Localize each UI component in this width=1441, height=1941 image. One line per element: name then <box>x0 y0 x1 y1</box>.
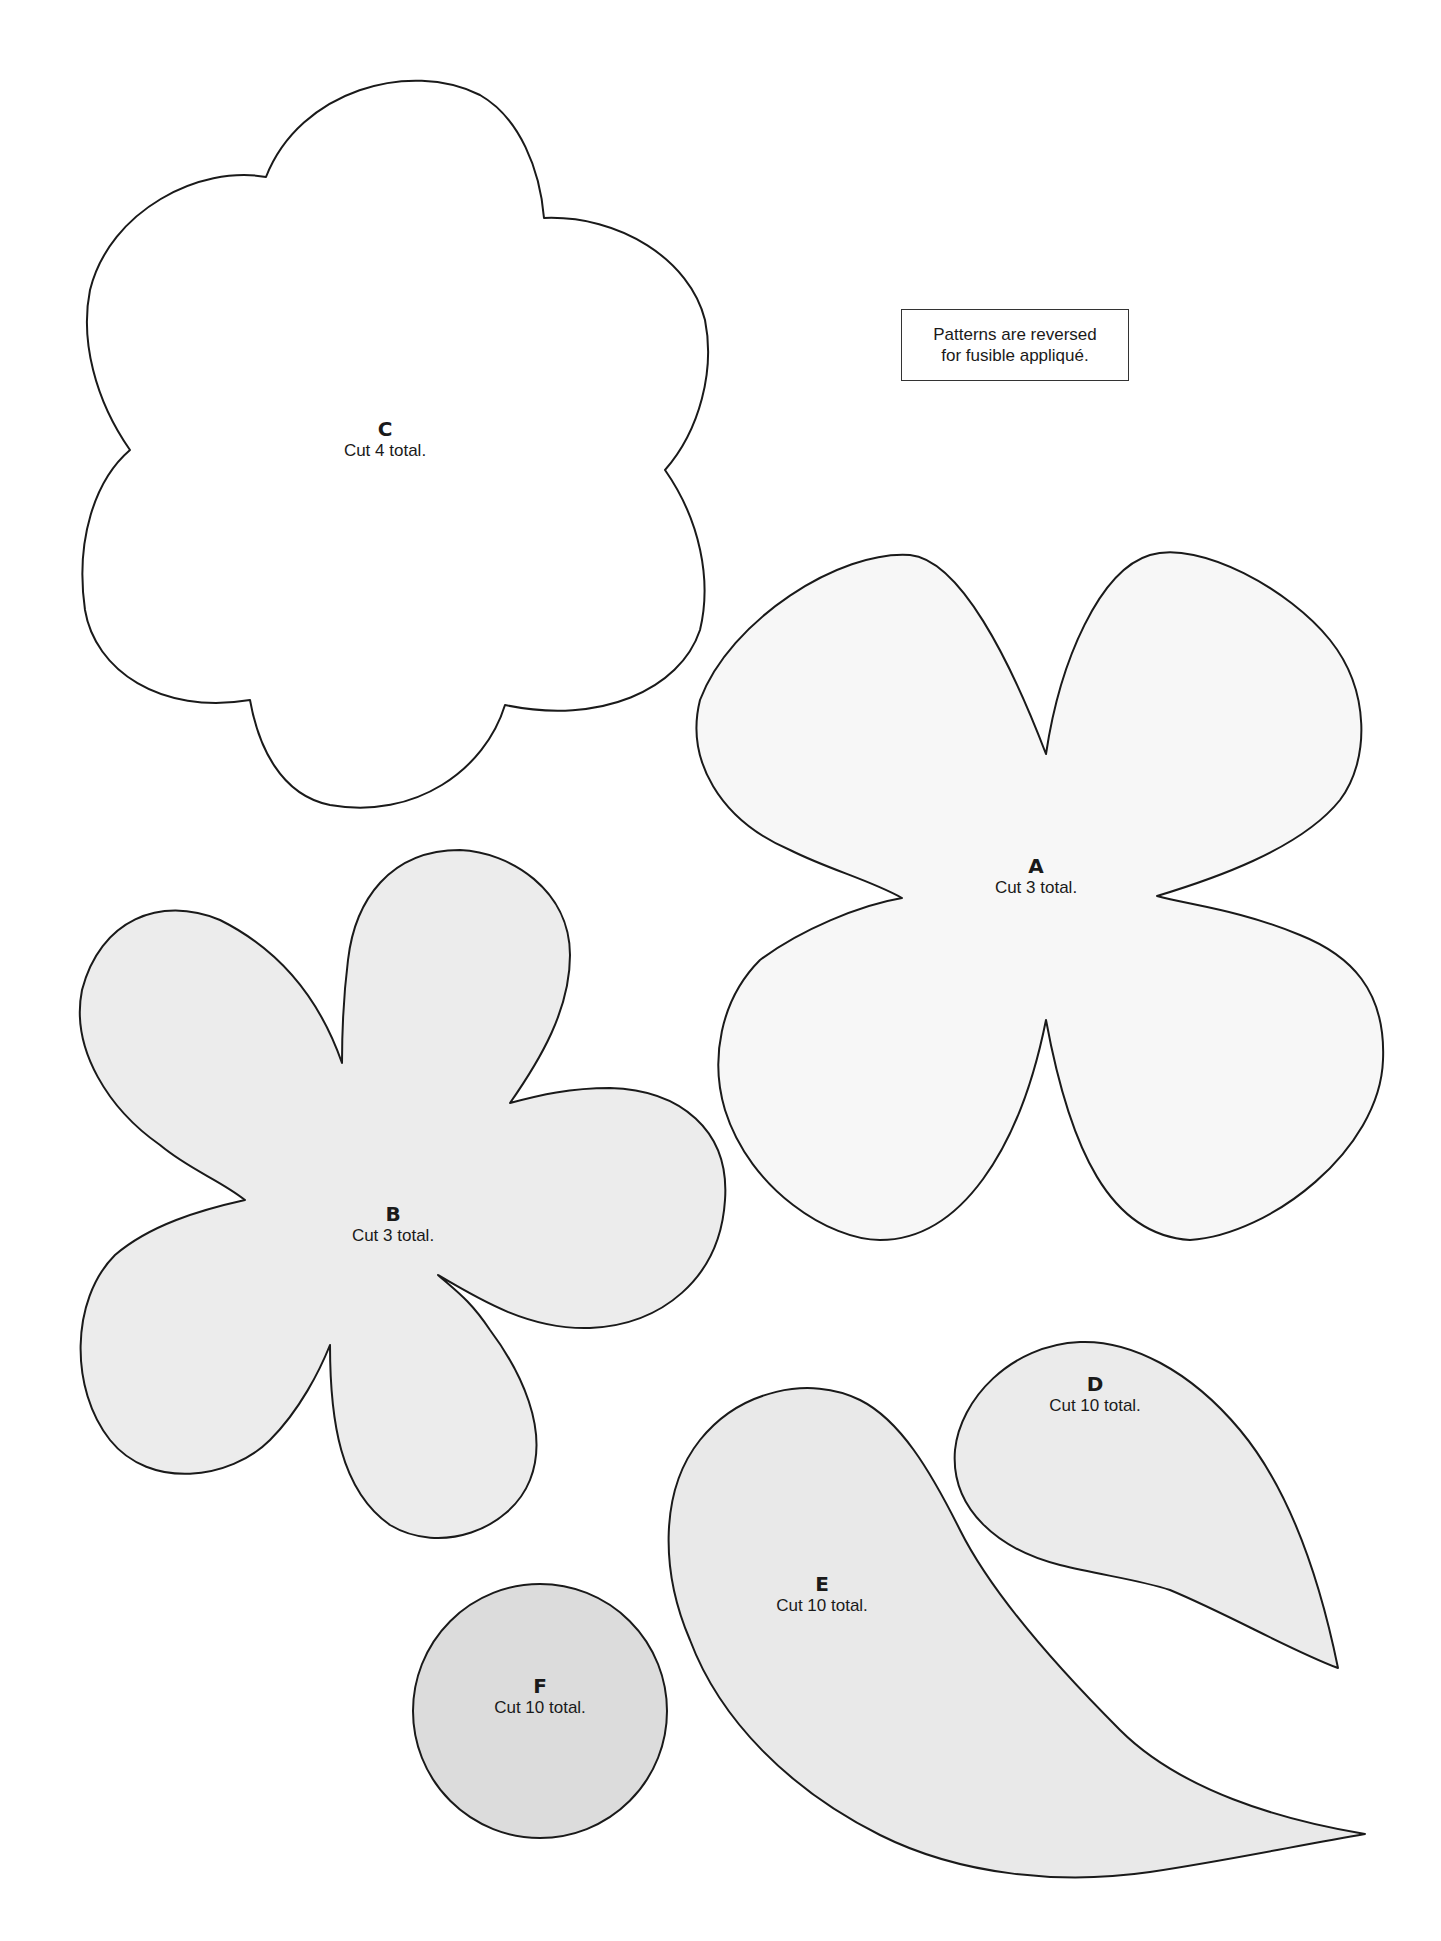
note-line-2: for fusible appliqué. <box>941 345 1088 366</box>
pattern-b-cut-count: Cut 3 total. <box>352 1226 434 1246</box>
pattern-c-cut-count: Cut 4 total. <box>344 441 426 461</box>
pattern-f-cut-count: Cut 10 total. <box>494 1698 586 1718</box>
pattern-a-label: A Cut 3 total. <box>995 855 1077 898</box>
pattern-d-cut-count: Cut 10 total. <box>1049 1396 1141 1416</box>
pattern-a-cut-count: Cut 3 total. <box>995 878 1077 898</box>
pattern-d-label: D Cut 10 total. <box>1049 1373 1141 1416</box>
pattern-e-label: E Cut 10 total. <box>776 1573 868 1616</box>
pattern-b-letter: B <box>352 1203 434 1226</box>
pattern-sheet <box>0 0 1441 1941</box>
pattern-e-letter: E <box>776 1573 868 1596</box>
pattern-f-letter: F <box>494 1675 586 1698</box>
pattern-c-letter: C <box>344 418 426 441</box>
pattern-d-letter: D <box>1049 1373 1141 1396</box>
note-line-1: Patterns are reversed <box>933 324 1096 345</box>
reversed-patterns-note: Patterns are reversed for fusible appliq… <box>901 309 1129 381</box>
pattern-a-letter: A <box>995 855 1077 878</box>
pattern-b-label: B Cut 3 total. <box>352 1203 434 1246</box>
pattern-f-label: F Cut 10 total. <box>494 1675 586 1718</box>
pattern-e-cut-count: Cut 10 total. <box>776 1596 868 1616</box>
pattern-b-shape <box>80 850 725 1538</box>
pattern-c-label: C Cut 4 total. <box>344 418 426 461</box>
